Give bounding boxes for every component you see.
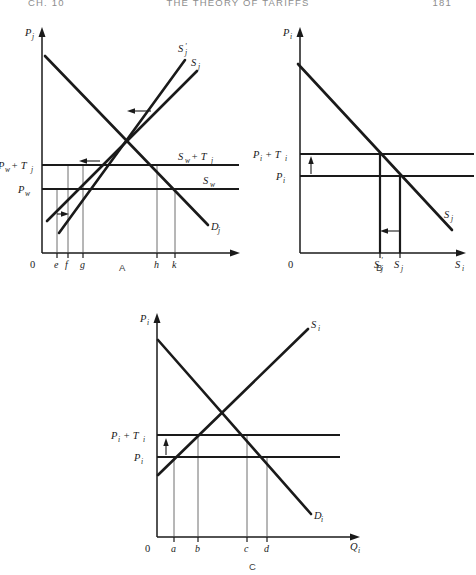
sj-prime-s: S bbox=[178, 43, 184, 54]
page-number: 181 bbox=[433, 0, 452, 8]
pi-p: P bbox=[275, 171, 283, 182]
sw-s-sub: w bbox=[210, 180, 215, 189]
x-axis-label-c-sub: i bbox=[358, 546, 360, 555]
pi-c-p: P bbox=[133, 452, 141, 463]
panel-letter-a: A bbox=[119, 262, 126, 273]
y-axis-label-b-text: P bbox=[282, 27, 290, 38]
sj-b-sub: j bbox=[450, 214, 453, 223]
x-tick-label-g: g bbox=[80, 259, 85, 270]
pi-plus-ti-c-p-sub: i bbox=[118, 435, 120, 444]
supply-curve-sj-b bbox=[298, 64, 452, 230]
axes-b bbox=[297, 27, 467, 257]
pi-plus-ti-c-plus-sub: i bbox=[143, 435, 145, 444]
curve-label-di-c: D i bbox=[313, 510, 323, 524]
sw-plus-tj-plus: + T bbox=[191, 151, 208, 162]
y-axis-label-b-sub: i bbox=[290, 32, 292, 41]
x-tick-label-f: f bbox=[65, 259, 69, 270]
sw-plus-tj-s-sub: w bbox=[185, 156, 190, 165]
price-label-pi-plus-ti-c: P i + T i bbox=[110, 430, 145, 444]
pi-plus-ti-c-plus: + T bbox=[123, 430, 140, 441]
pw-p-sub: w bbox=[25, 189, 30, 198]
pi-plus-ti-plus: + T bbox=[265, 149, 282, 160]
quantity-arrow-a bbox=[57, 211, 69, 216]
si-c-sub: i bbox=[318, 324, 320, 333]
dj-sub: j bbox=[217, 226, 220, 235]
origin-label-c: 0 bbox=[145, 543, 150, 554]
quantity-arrow-b bbox=[380, 228, 400, 233]
panel-letter-c: C bbox=[249, 561, 256, 572]
x-tick-label-d: d bbox=[264, 543, 270, 554]
price-label-pi-plus-ti-b: P i + T i bbox=[252, 149, 287, 163]
sw-plus-tj-s: S bbox=[178, 151, 184, 162]
y-axis-label-a-text: P bbox=[24, 27, 32, 38]
curve-label-sj-b: S j bbox=[444, 209, 453, 223]
price-label-pi-c: P i bbox=[133, 452, 143, 466]
x-axis-label-b-sub: i bbox=[462, 264, 464, 273]
x-tick-label-e: e bbox=[54, 259, 59, 270]
x-tick-label-b: b bbox=[195, 543, 200, 554]
pw-p: P bbox=[17, 184, 25, 195]
y-axis-label-a: P j bbox=[24, 27, 34, 41]
sj-sub: j bbox=[197, 62, 200, 71]
curve-label-si-c: S i bbox=[311, 319, 320, 333]
pi-plus-ti-p-sub: i bbox=[260, 154, 262, 163]
sw-s: S bbox=[203, 175, 209, 186]
pi-plus-ti-c-p: P bbox=[110, 430, 118, 441]
pw-plus-tj-p-sub: w bbox=[5, 165, 10, 174]
x-tick-label-c: c bbox=[244, 543, 249, 554]
curve-label-sw-a: S w bbox=[203, 175, 215, 189]
price-label-pi-b: P i bbox=[275, 171, 285, 185]
price-label-pw-a: P w bbox=[17, 184, 30, 198]
x-axis-label-c-text: Q bbox=[350, 541, 358, 552]
tariff-arrow-b bbox=[308, 156, 313, 174]
shift-arrow-lower-a bbox=[79, 158, 100, 163]
x-tick-sj-sub: j bbox=[400, 264, 403, 273]
x-tick-label-sj-b: S j bbox=[394, 259, 403, 273]
x-tick-label-h: h bbox=[154, 259, 159, 270]
y-axis-label-c: P i bbox=[139, 313, 149, 327]
guide-lines-a bbox=[57, 165, 175, 253]
supply-curve-sj-prime-a bbox=[59, 60, 185, 233]
panel-c: P i P i + T i P i S i D i bbox=[112, 292, 412, 575]
di-c-sub: i bbox=[321, 515, 323, 524]
si-c-s: S bbox=[311, 319, 317, 330]
pw-plus-tj-plus: + T bbox=[11, 160, 28, 171]
panel-b: P i P i + T i P i S j S i bbox=[248, 18, 476, 273]
price-label-pw-plus-tj-a: P w + T j bbox=[0, 160, 33, 174]
origin-label-a: 0 bbox=[30, 259, 35, 270]
axes-c bbox=[154, 313, 361, 541]
sj-b-s: S bbox=[444, 209, 450, 220]
panel-a: P j P w + T j P w S j ' S j bbox=[0, 18, 250, 273]
curve-label-sj-a: S j bbox=[191, 57, 200, 71]
sw-plus-tj-plus-sub: j bbox=[210, 156, 213, 165]
pi-c-p-sub: i bbox=[141, 457, 143, 466]
pi-p-sub: i bbox=[283, 176, 285, 185]
axes-a bbox=[39, 27, 241, 257]
curve-label-sw-plus-tj-a: S w + T j bbox=[178, 151, 213, 165]
guide-lines-c bbox=[174, 435, 267, 537]
panel-letter-b: B bbox=[376, 262, 382, 273]
x-tick-label-k: k bbox=[172, 259, 177, 270]
curve-label-sj-prime-a: S j ' bbox=[178, 42, 187, 57]
supply-curve-c bbox=[158, 329, 308, 475]
x-tick-label-a: a bbox=[171, 543, 176, 554]
x-axis-label-c: Q i bbox=[350, 541, 360, 555]
x-tick-sj-s: S bbox=[394, 259, 400, 270]
running-head-title: THE THEORY OF TARIFFS bbox=[0, 0, 476, 8]
sj-s: S bbox=[191, 57, 197, 68]
origin-label-b: 0 bbox=[288, 259, 293, 270]
pw-plus-tj-plus-sub: j bbox=[30, 165, 33, 174]
curve-label-dj-a: D j bbox=[210, 221, 220, 235]
pi-plus-ti-plus-sub: i bbox=[285, 154, 287, 163]
running-head: CH. 10 THE THEORY OF TARIFFS 181 bbox=[0, 0, 476, 13]
pi-plus-ti-p: P bbox=[252, 149, 260, 160]
tariff-arrow-c bbox=[163, 438, 168, 455]
y-axis-label-c-sub: i bbox=[147, 318, 149, 327]
x-axis-label-b: S i bbox=[455, 259, 464, 273]
x-axis-label-b-text: S bbox=[455, 259, 461, 270]
figure-page: CH. 10 THE THEORY OF TARIFFS 181 bbox=[0, 0, 476, 575]
demand-curve-c bbox=[158, 340, 311, 514]
y-axis-label-b: P i bbox=[282, 27, 292, 41]
y-axis-label-c-text: P bbox=[139, 313, 147, 324]
y-axis-label-a-sub: j bbox=[31, 32, 34, 41]
